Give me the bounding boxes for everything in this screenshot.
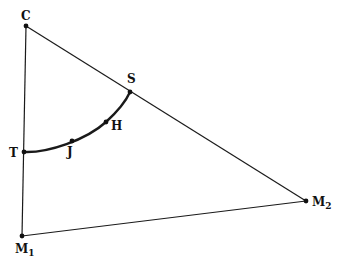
point-j: [70, 139, 75, 144]
point-h: [104, 120, 109, 125]
point-c: [24, 24, 29, 29]
label-h: H: [111, 119, 122, 133]
triangle-diagram: C S H J T M1 M2: [0, 0, 339, 264]
segment-c-m2: [26, 26, 306, 201]
point-s: [128, 90, 133, 95]
label-j: J: [66, 145, 73, 159]
label-m2: M2: [312, 195, 332, 211]
label-t: T: [9, 146, 18, 160]
point-m1: [20, 234, 25, 239]
label-m1: M1: [15, 242, 35, 258]
label-s: S: [127, 72, 136, 86]
segment-m1-m2: [22, 201, 306, 236]
point-t: [22, 150, 27, 155]
diagram-canvas: C S H J T M1 M2: [0, 0, 339, 264]
point-m2: [304, 199, 309, 204]
label-c: C: [21, 9, 31, 23]
segment-c-m1: [22, 26, 26, 236]
